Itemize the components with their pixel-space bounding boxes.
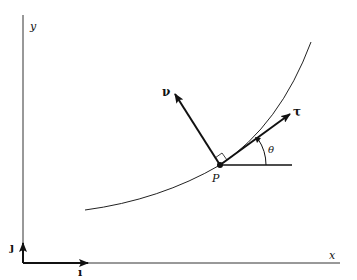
tangent-label: τ	[293, 105, 301, 119]
tangent-vector	[220, 114, 290, 165]
point-p-label: P	[211, 172, 220, 185]
unit-j-label: ȷ	[9, 241, 14, 254]
y-axis-label: y	[29, 20, 37, 33]
curve	[85, 42, 311, 210]
angle-arc	[258, 139, 266, 165]
normal-label: ν	[162, 85, 170, 99]
tangent-normal-diagram: y x ȷ ı P τ ν θ	[0, 0, 357, 280]
x-axis-label: x	[329, 249, 336, 262]
normal-vector	[175, 94, 220, 165]
unit-i-label: ı	[78, 266, 82, 279]
point-p	[217, 162, 223, 168]
angle-label: θ	[268, 144, 274, 155]
